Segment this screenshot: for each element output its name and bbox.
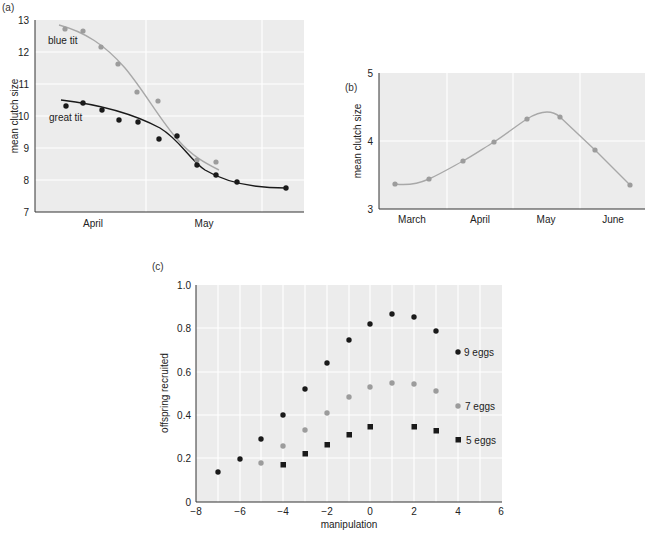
panel-c-label: (c) — [152, 261, 164, 272]
tick: 13 — [18, 15, 30, 26]
tick: 0.6 — [177, 367, 191, 378]
tick: −6 — [234, 506, 246, 517]
legend-7-eggs-label: 7 eggs — [465, 401, 495, 412]
tick: −8 — [190, 506, 202, 517]
tick: 11 — [19, 79, 30, 90]
tick: June — [602, 214, 624, 225]
tick: 9 — [23, 143, 29, 154]
panel-b-y-ticks: 3 4 5 — [367, 68, 373, 215]
tick: 4 — [455, 506, 461, 517]
panel-a-label: (a) — [2, 2, 14, 13]
tick: 0.8 — [177, 323, 191, 334]
tick: 2 — [411, 506, 417, 517]
tick: 8 — [23, 175, 29, 186]
tick: −4 — [277, 506, 289, 517]
legend-7-eggs-marker — [455, 403, 460, 408]
legend-5-eggs-label: 5 eggs — [466, 435, 496, 446]
tick: March — [398, 214, 426, 225]
tick: 0.4 — [177, 410, 191, 421]
panel-c: (c) 0 0.2 0.4 0.6 0. — [152, 261, 504, 530]
tick: 4 — [367, 136, 373, 147]
figure-canvas: (a) 7 8 9 10 11 12 13 April May mean clu… — [0, 0, 650, 537]
tick: 6 — [498, 506, 504, 517]
great-tit-label: great tit — [49, 112, 83, 123]
panel-a-y-label: mean clutch size — [9, 78, 20, 153]
panel-a-x-ticks: April May — [83, 218, 213, 229]
tick: −2 — [321, 506, 333, 517]
panel-c-x-label: manipulation — [321, 519, 378, 530]
blue-tit-label: blue tit — [48, 35, 78, 46]
legend-9-eggs-marker — [455, 349, 460, 354]
tick: May — [195, 218, 214, 229]
legend-5-eggs-marker — [456, 437, 462, 443]
tick: 7 — [23, 207, 29, 218]
panel-b-y-label: mean clutch size — [352, 103, 363, 178]
tick: 1.0 — [177, 280, 191, 291]
tick: 12 — [18, 47, 30, 58]
panel-c-y-ticks: 0 0.2 0.4 0.6 0.8 1.0 — [177, 280, 191, 508]
tick: April — [470, 214, 490, 225]
panel-c-x-ticks: −8 −6 −4 −2 0 2 4 6 — [190, 506, 504, 517]
panel-b-label: (b) — [345, 82, 357, 93]
tick: 0 — [367, 506, 373, 517]
tick: 3 — [367, 204, 373, 215]
panel-c-y-label: offspring recruited — [159, 353, 170, 433]
tick: April — [83, 218, 103, 229]
tick: 0.2 — [177, 453, 191, 464]
panel-b: (b) 3 4 5 March April May June mean clut… — [345, 68, 645, 225]
legend-9-eggs-label: 9 eggs — [464, 347, 494, 358]
tick: May — [537, 214, 556, 225]
tick: 5 — [367, 68, 373, 79]
panel-a: (a) 7 8 9 10 11 12 13 April May mean clu… — [2, 2, 304, 229]
panel-b-x-ticks: March April May June — [398, 214, 624, 225]
